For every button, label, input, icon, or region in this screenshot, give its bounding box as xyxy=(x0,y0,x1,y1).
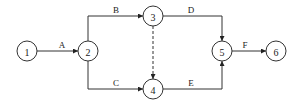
edge-label-c: C xyxy=(113,78,119,88)
node-4: 4 xyxy=(143,79,163,99)
edge-label-a: A xyxy=(59,40,66,50)
edge-e: E xyxy=(163,61,222,89)
node-label-5: 5 xyxy=(220,47,225,58)
node-6: 6 xyxy=(266,41,286,61)
node-2: 2 xyxy=(78,41,98,61)
edge-label-b: B xyxy=(113,5,119,15)
node-label-6: 6 xyxy=(274,47,279,58)
node-label-3: 3 xyxy=(151,12,156,23)
node-label-1: 1 xyxy=(25,47,30,58)
edge-label-e: E xyxy=(188,78,194,88)
edge-c: C xyxy=(88,61,143,89)
node-5: 5 xyxy=(212,41,232,61)
node-label-4: 4 xyxy=(151,85,156,96)
edge-a: A xyxy=(37,40,78,51)
network-diagram: A B C D E F 1 2 3 4 xyxy=(0,0,300,108)
edge-b: B xyxy=(88,5,143,41)
node-label-2: 2 xyxy=(86,47,91,58)
edge-label-d: D xyxy=(188,5,195,15)
node-1: 1 xyxy=(17,41,37,61)
edge-label-f: F xyxy=(242,40,247,50)
edge-f: F xyxy=(232,40,266,51)
node-3: 3 xyxy=(143,6,163,26)
edge-d: D xyxy=(163,5,222,41)
